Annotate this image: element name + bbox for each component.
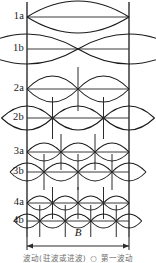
lobe-lower-2b-2 xyxy=(53,118,104,130)
lobe-upper-4a-4 xyxy=(104,196,130,203)
row-label-4b: 4b xyxy=(0,215,24,226)
lobe-upper-4a-2 xyxy=(53,196,79,203)
lobe-lower-1b-2 xyxy=(78,49,156,64)
lobe-upper-4a-3 xyxy=(78,196,104,203)
mode-row-3b xyxy=(10,154,146,190)
lobe-upper-3a-2 xyxy=(61,143,95,152)
row-label-3a: 3a xyxy=(0,146,24,157)
lobe-upper-3a-1 xyxy=(27,143,61,152)
row-label-4a: 4a xyxy=(0,197,24,208)
lobe-lower-3b-3 xyxy=(78,172,112,181)
dimension-arrow-head-right xyxy=(123,243,129,248)
lobe-upper-3a-3 xyxy=(95,143,129,152)
lobe-lower-1a-1 xyxy=(27,17,129,33)
mode-row-1a xyxy=(27,1,129,33)
figure-caption: 波动(驻波或进波) ○ 第一波动 xyxy=(0,252,156,263)
row-label-3b: 3b xyxy=(0,166,24,177)
row-label-1a: 1a xyxy=(0,11,24,22)
row-label-2a: 2a xyxy=(0,83,24,94)
lobe-upper-2a-1 xyxy=(27,76,78,89)
row-label-2b: 2b xyxy=(0,112,24,123)
width-dimension-label: B xyxy=(0,226,156,238)
mode-row-2a xyxy=(27,67,129,111)
dimension-arrow-head-left xyxy=(27,243,33,248)
lobe-upper-2a-2 xyxy=(78,76,129,89)
lobe-upper-4a-1 xyxy=(27,196,53,203)
lobe-upper-1a-1 xyxy=(27,1,129,17)
lobe-lower-3b-2 xyxy=(44,172,78,181)
row-label-1b: 1b xyxy=(0,43,24,54)
lobe-upper-1b-2 xyxy=(78,34,156,49)
